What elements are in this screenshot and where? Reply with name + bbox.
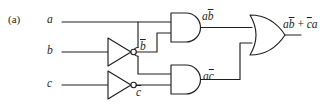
and-top-output-label: ab xyxy=(202,11,214,23)
wire-a-branch-lower xyxy=(138,56,171,74)
b-bar-text: b xyxy=(140,40,146,52)
not-bubble-b xyxy=(131,49,136,54)
output-plus-text: + xyxy=(295,18,307,30)
signal-label-b-bar: b xyxy=(140,41,146,53)
input-label-a: a xyxy=(47,14,53,26)
not-gate-icon-c xyxy=(108,71,131,99)
not-gate-icon-b xyxy=(108,38,131,66)
c-bar-text: c xyxy=(136,86,141,98)
and-gate-icon-top xyxy=(171,13,200,42)
or-gate-icon xyxy=(250,15,285,55)
and-bottom-cbar-text: c xyxy=(209,70,214,82)
logic-circuit-diagram: (a) a b c b c ab ac ab + ca xyxy=(0,0,335,112)
input-label-c: c xyxy=(47,78,52,90)
and-top-bbar-text: b xyxy=(208,10,214,22)
circuit-output-label: ab + ca xyxy=(283,19,318,31)
input-label-b: b xyxy=(47,45,53,57)
and-bottom-output-label: ac xyxy=(203,71,214,83)
output-a2-text: a xyxy=(312,18,318,30)
figure-label: (a) xyxy=(8,14,20,25)
and-gate-icon-bottom xyxy=(171,65,201,94)
signal-label-c-bar: c xyxy=(136,87,141,99)
